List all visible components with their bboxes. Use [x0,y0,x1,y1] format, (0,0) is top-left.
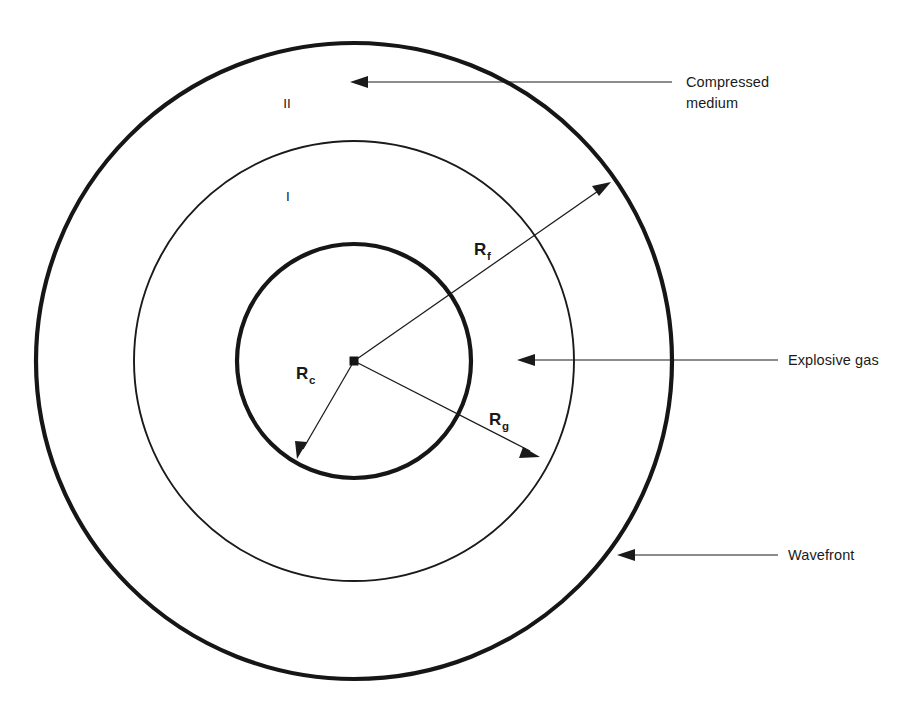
radius-line-front [354,189,601,361]
radius-label-front-subscript: f [487,250,491,262]
radius-label-core: R [296,364,308,383]
callout-label-compressed-medium-line1: Compressed [686,74,769,90]
explosion-wave-diagram: II I R f R c R g Compressed medium Explo… [0,0,917,711]
callout-arrowhead-compressed-medium [350,76,368,88]
callout-arrowhead-wavefront [617,549,635,561]
callout-arrowhead-explosive-gas [517,354,535,366]
radius-label-core-subscript: c [309,374,316,386]
region-label-inner: I [286,189,290,204]
callout-label-compressed-medium-line2: medium [686,95,738,111]
callout-label-wavefront: Wavefront [788,547,854,563]
figure-root: II I R f R c R g Compressed medium Explo… [0,0,917,711]
callout-label-explosive-gas: Explosive gas [788,352,879,368]
radius-arrowhead-gas [519,447,540,458]
radius-label-front: R [474,240,486,259]
radius-label-gas-subscript: g [502,420,509,432]
radius-arrowhead-core [295,441,307,459]
radius-label-gas: R [489,410,501,429]
region-label-outer: II [283,96,291,111]
